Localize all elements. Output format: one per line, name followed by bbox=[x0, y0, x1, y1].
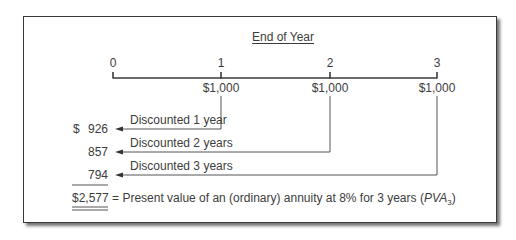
total-description: = Present value of an (ordinary) annuity… bbox=[112, 191, 424, 205]
total-value: $2,577 bbox=[72, 191, 109, 205]
payment-year-3: $1,000 bbox=[419, 81, 456, 95]
tick-label-3: 3 bbox=[434, 56, 441, 70]
discount-label-1: Discounted 1 year bbox=[130, 113, 227, 127]
total-description-end: ) bbox=[452, 191, 456, 205]
end-of-year-title: End of Year bbox=[252, 30, 314, 44]
tick-label-0: 0 bbox=[110, 56, 117, 70]
tick-label-1: 1 bbox=[218, 56, 225, 70]
discount-label-2: Discounted 2 years bbox=[130, 136, 233, 150]
total-pva-statement: $2,577 = Present value of an (ordinary) … bbox=[72, 191, 456, 210]
pva-symbol: PVA bbox=[424, 191, 447, 205]
pv-year-2: 857 bbox=[88, 145, 108, 159]
tick-label-2: 2 bbox=[327, 56, 334, 70]
dollar-sign: $ bbox=[73, 122, 80, 136]
discount-label-3: Discounted 3 years bbox=[130, 159, 233, 173]
pv-year-1: 926 bbox=[88, 122, 108, 136]
payment-year-1: $1,000 bbox=[203, 81, 240, 95]
payment-year-2: $1,000 bbox=[312, 81, 349, 95]
pv-year-3: 794 bbox=[88, 168, 108, 182]
